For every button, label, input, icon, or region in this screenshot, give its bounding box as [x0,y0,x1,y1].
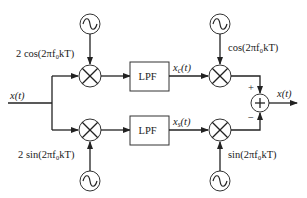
input-signal: x(t) [8,76,78,130]
upper-right-mixer [209,65,231,87]
upper-left-oscillator [80,14,100,64]
upper-left-oscillator-label: 2 cos(2πf₀kT) [16,48,75,60]
summer-minus-sign: − [248,112,254,123]
upper-right-oscillator [210,14,230,64]
upper-lpf-label: LPF [139,71,157,82]
output-label: x(t) [276,88,292,100]
upper-lpf-block: LPF [130,62,169,91]
lower-right-oscillator [210,142,230,191]
upper-filter-output-label: xc(t) [172,62,191,75]
summing-junction [251,94,269,112]
upper-left-mixer [79,65,101,87]
upper-right-oscillator-label: cos(2πf₀kT) [228,42,279,54]
lower-left-oscillator [80,142,100,191]
lower-lpf-label: LPF [139,125,157,136]
lower-filter-output-label: xs(t) [172,116,191,129]
lower-right-mixer [209,119,231,141]
input-label: x(t) [9,90,25,102]
lower-left-mixer [79,119,101,141]
summer-plus-sign: + [248,82,254,93]
iq-modulation-diagram: x(t) 2 cos(2πf₀kT) LPF xc(t) cos(2πf₀kT) [0,0,307,198]
lower-right-oscillator-label: sin(2πf₀kT) [228,149,277,161]
lower-lpf-block: LPF [130,116,169,145]
lower-left-oscillator-label: 2 sin(2πf₀kT) [18,149,75,161]
